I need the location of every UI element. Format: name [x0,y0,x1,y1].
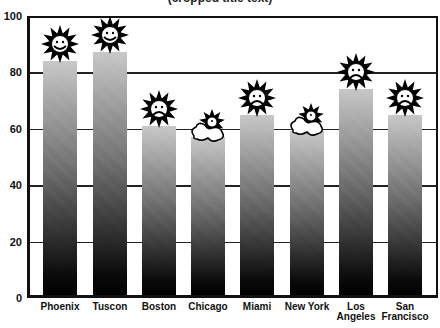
x-tick-label: SanFrancisco [375,302,435,322]
gridline [30,242,436,244]
chart-title-cropped: (cropped title text) [0,0,440,8]
happy-sun-icon [90,15,130,55]
y-tick-label: 60 [0,123,22,135]
y-tick-label: 0 [0,292,22,304]
bar-new-york [290,131,324,295]
sad-sun-icon [385,78,425,118]
cloud-sun-icon [188,106,228,146]
happy-sun-icon [40,24,80,64]
bar-boston [142,126,176,295]
plot-area [27,16,438,298]
sad-sun-icon [336,52,376,92]
bar-miami [240,115,274,295]
bar-los-angeles [339,89,373,295]
bar-tuscon [93,52,127,295]
cloud-sun-icon [287,100,327,140]
y-tick-label: 80 [0,66,22,78]
gridline [30,185,436,187]
bar-chicago [191,137,225,295]
bar-san-francisco [388,115,422,295]
sad-sun-icon [139,89,179,129]
gridline [30,129,436,131]
bar-phoenix [43,61,77,295]
sad-sun-icon [237,78,277,118]
y-tick-label: 100 [0,10,22,22]
y-tick-label: 40 [0,179,22,191]
y-tick-label: 20 [0,236,22,248]
